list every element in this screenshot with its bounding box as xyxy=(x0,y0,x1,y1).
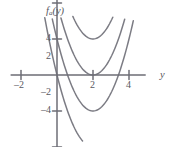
x-tick-label-2: 2 xyxy=(90,80,95,90)
parabola-family-figure: fa(y) y –2 2 4 4 2 –2 –4 xyxy=(0,0,176,147)
y-axis-title: fa(y) xyxy=(46,6,64,17)
y-tick-label--4: –4 xyxy=(41,105,51,115)
plot-area xyxy=(0,0,176,147)
x-tick-label-4: 4 xyxy=(126,80,131,90)
x-axis-title: y xyxy=(160,70,165,81)
y-tick-label-2: 2 xyxy=(46,51,51,61)
axes-group xyxy=(11,0,145,147)
x-tick-label--2: –2 xyxy=(14,80,24,90)
y-tick-label--2: –2 xyxy=(41,87,51,97)
parabola-curve xyxy=(61,18,125,75)
y-tick-label-4: 4 xyxy=(46,33,51,43)
y-axis-title-arg: (y) xyxy=(52,5,64,16)
parabola-curve xyxy=(73,16,113,39)
